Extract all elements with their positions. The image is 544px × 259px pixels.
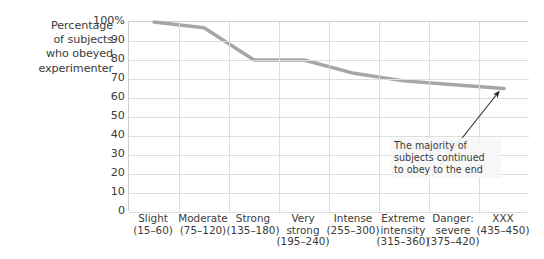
x-tick-label-range: (135–180) [227,225,280,237]
x-tick-label-name: Danger: [427,213,480,225]
x-tick-label-name: Moderate [178,213,227,225]
x-tick-label-range: (255–300) [327,225,380,237]
x-tick-label: Slight(15–60) [133,213,173,236]
y-tick-label: 50 [92,110,125,121]
x-axis-tick-labels: Slight(15–60)Moderate(75–120)Strong(135–… [0,213,544,259]
y-tick-label: 20 [92,167,125,178]
x-tick-label-name: Intense [327,213,380,225]
y-tick-label: 70 [92,72,125,83]
x-gridline [279,22,280,212]
y-tick-label: 100% [92,15,125,26]
plot-area [128,21,528,211]
y-tick-label: 40 [92,129,125,140]
y-tick-label: 30 [92,148,125,159]
x-tick-label-range: (375–420) [427,236,480,248]
x-tick-label-range: (315–360) [377,236,430,248]
annotation-line-2: subjects continued [394,152,498,164]
annotation-callout: The majority of subjects continued to ob… [391,138,501,178]
x-tick-label-name: Slight [133,213,173,225]
x-gridline [329,22,330,212]
y-tick-label: 10 [92,186,125,197]
x-gridline [179,22,180,212]
x-tick-label-range: (15–60) [133,225,173,237]
y-tick-label: 90 [92,34,125,45]
x-tick-label: Strong(135–180) [227,213,280,236]
x-tick-label-range: (75–120) [178,225,227,237]
x-gridline [379,22,380,212]
y-tick-label: 80 [92,53,125,64]
x-tick-label: Extremeintensity(315–360) [377,213,430,248]
annotation-line-3: to obey to the end [394,164,498,176]
x-gridline [229,22,230,212]
x-tick-label: Verystrong(195–240) [277,213,330,248]
x-tick-label: XXX(435–450) [477,213,530,236]
x-tick-label-name: XXX [477,213,530,225]
x-tick-label: Intense(255–300) [327,213,380,236]
x-tick-label-range: (435–450) [477,225,530,237]
y-tick-label: 60 [92,91,125,102]
x-tick-label-name: Strong [227,213,280,225]
x-tick-label-range: (195–240) [277,236,330,248]
x-gridline [479,22,480,212]
x-tick-label-name: Very [277,213,330,225]
chart-figure: Percentage of subjects who obeyed experi… [0,0,544,259]
x-tick-label: Moderate(75–120) [178,213,227,236]
annotation-line-1: The majority of [394,140,498,152]
x-tick-label-name: Extreme [377,213,430,225]
x-tick-label: Danger:severe(375–420) [427,213,480,248]
x-gridline [429,22,430,212]
